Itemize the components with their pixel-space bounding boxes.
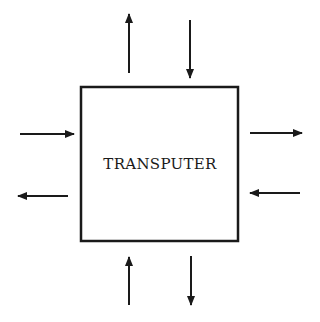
transputer-label: TRANSPUTER [103,155,216,173]
block-label: TRANSPUTER [80,86,240,242]
